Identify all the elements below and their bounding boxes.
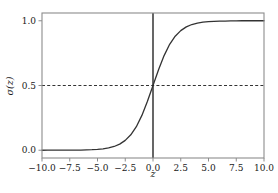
x-tick-label: 5.0: [201, 163, 216, 173]
sigmoid-figure: −10.0−7.5−5.0−2.50.02.55.07.510.0 0.00.5…: [0, 0, 278, 193]
x-tick-label: 2.5: [174, 163, 189, 173]
x-tick-label: −10.0: [28, 163, 56, 173]
chart-canvas: −10.0−7.5−5.0−2.50.02.55.07.510.0 0.00.5…: [0, 0, 278, 193]
y-tick-label: 0.0: [22, 145, 37, 155]
y-axis-ticks: 0.00.51.0: [22, 16, 42, 155]
x-tick-label: −5.0: [87, 163, 109, 173]
y-tick-label: 0.5: [22, 81, 37, 91]
x-tick-label: 10.0: [254, 163, 274, 173]
y-tick-label: 1.0: [22, 16, 37, 26]
x-tick-label: 7.5: [229, 163, 244, 173]
x-tick-label: −2.5: [114, 163, 136, 173]
x-axis-label: z: [149, 168, 156, 179]
y-axis-label: σ(z): [4, 76, 15, 95]
x-tick-label: −7.5: [59, 163, 81, 173]
